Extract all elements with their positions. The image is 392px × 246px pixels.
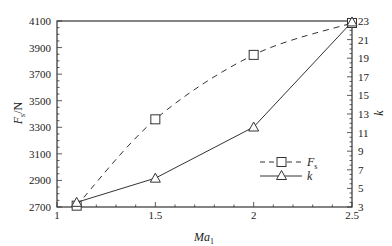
y-right-tick-label: 15: [358, 89, 370, 101]
y-right-tick-label: 17: [358, 71, 370, 83]
x-tick-label: 2: [251, 209, 257, 221]
y-left-tick-label: 2700: [29, 201, 52, 213]
x-tick-label: 1: [54, 209, 60, 221]
legend-marker-triangle: [277, 171, 287, 180]
y-right-tick-label: 21: [358, 34, 369, 46]
data-point-triangle: [150, 173, 160, 182]
y-left-tick-label: 3700: [29, 68, 52, 80]
y-axis-left-title: Fs/N: [11, 101, 27, 125]
y-right-tick-label: 9: [358, 145, 364, 157]
x-tick-label: 1.5: [148, 209, 162, 221]
legend: Fs k: [260, 155, 317, 183]
y-right-tick-label: 3: [358, 201, 364, 213]
data-point-square: [151, 115, 160, 124]
series-lines: [72, 17, 357, 210]
legend-label-k: k: [307, 169, 313, 183]
x-axis-title: Ma1: [193, 230, 214, 246]
y-left-tick-label: 3500: [29, 95, 52, 107]
dual-axis-line-chart: 11.522.5 2700290031003300350037003900410…: [0, 0, 392, 246]
y-right-tick-label: 11: [358, 127, 369, 139]
y-right-tick-label: 13: [358, 108, 370, 120]
y-left-tick-label: 3300: [29, 121, 52, 133]
y-right-tick-label: 19: [358, 52, 370, 64]
legend-marker-square: [277, 158, 286, 167]
y-left-tick-label: 2900: [29, 174, 52, 186]
y-right-tick-label: 7: [358, 164, 364, 176]
y-left-tick-label: 3100: [29, 148, 52, 160]
y-axis-right-title: k: [372, 110, 386, 116]
y-axis-right: 357911131517192123: [347, 15, 370, 213]
y-left-tick-label: 4100: [29, 15, 52, 27]
y-right-tick-label: 5: [358, 182, 364, 194]
y-right-tick-label: 23: [358, 15, 370, 27]
x-axis: 11.522.5: [54, 202, 359, 221]
data-point-square: [249, 50, 258, 59]
y-left-tick-label: 3900: [29, 42, 52, 54]
